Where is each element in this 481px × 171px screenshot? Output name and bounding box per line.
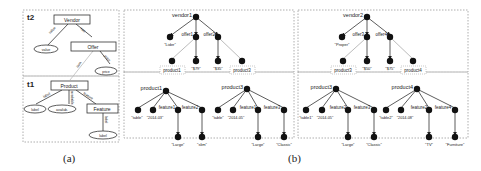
edge-label: label [104,116,108,124]
price-label: "$35" [213,66,223,71]
edge-label: value [48,26,57,35]
label-label: label [31,108,39,112]
product1-node-label: product1 [141,85,162,91]
vendor1-value-label: "Lider" [164,42,176,47]
literal-label: "Large" [251,142,265,147]
available-label: availab. [56,108,68,112]
offer-class-label: Offer [87,44,98,50]
product-ref-label: product4 [404,68,422,73]
t2-label: t2 [27,13,35,22]
caption-b: (b) [288,152,301,164]
offer4-label: offer4 [376,32,388,37]
edge-label: available [70,91,74,105]
price-label: "$79" [191,66,201,71]
feature-label-label: label [99,134,107,138]
offer3-label: offer3 [353,32,365,37]
literal-label: "Large" [341,142,355,147]
value-label: value [42,48,50,52]
feature-label: feature2 [182,105,199,110]
feature-class-label: Feature [93,106,110,112]
price-label: "$75" [385,66,395,71]
diagram-canvas: t2 t1 value has price item Vendor value … [0,0,481,171]
literal-label: "table" [131,115,143,120]
price-label: price [102,70,110,74]
vendor-class-label: Vendor [64,17,80,23]
literal-label: "table" [212,115,224,120]
literal-label: "Classic" [366,142,382,147]
feature-label: feature3 [264,105,281,110]
offer2-label: offer2 [204,32,216,37]
feature-label: feature3 [354,105,371,110]
product-ref-label: product3 [334,68,352,73]
feature-label: feature2 [411,105,428,110]
product3-node-label: product3 [222,84,243,90]
t1-label: t1 [27,80,35,89]
product-ref-label: product3 [233,68,251,73]
offer1-label: offer1 [182,32,194,37]
edge-label: has [79,27,86,34]
price-label: "$50" [362,66,372,71]
instance-panel-right: vendor2 "Proper" offer3 offer4 "$50" "$7… [298,10,468,147]
caption-a: (a) [63,152,75,164]
literal-label: "2014-05" [228,116,245,120]
product4-node-label: product4 [392,84,413,90]
literal-label: "2014-03" [147,116,164,120]
literal-label: "table2" [379,115,393,120]
schema-panel: t2 t1 value has price item Vendor value … [23,10,119,142]
vendor2-value-label: "Proper" [335,42,350,47]
literal-label: "Classic" [276,142,292,147]
feature-label: feature1 [159,105,176,110]
literal-label: "Furniture" [446,142,465,147]
literal-label: "2014-08" [397,116,414,120]
product-class-label: Product [60,83,78,89]
product-ref-label: product1 [163,68,181,73]
feature-label: feature4 [435,105,452,110]
literal-label: "table1" [299,115,313,120]
vendor2-node-label: vendor2 [343,12,363,18]
feature-label: feature1 [240,105,257,110]
literal-label: "2014-05" [317,116,334,120]
literal-label: "Large" [171,142,185,147]
instance-panel-left: vendor1 "Lider" offer1 offer2 "$79" "$35… [124,10,294,147]
literal-label: "TV" [425,142,434,147]
vendor1-node-label: vendor1 [172,12,192,18]
edge-label: price [103,54,111,62]
product3-node-label: product3 [311,84,332,90]
feature-label: feature2 [330,105,347,110]
edge-label: item [76,61,83,69]
literal-label: "slim" [197,142,208,147]
